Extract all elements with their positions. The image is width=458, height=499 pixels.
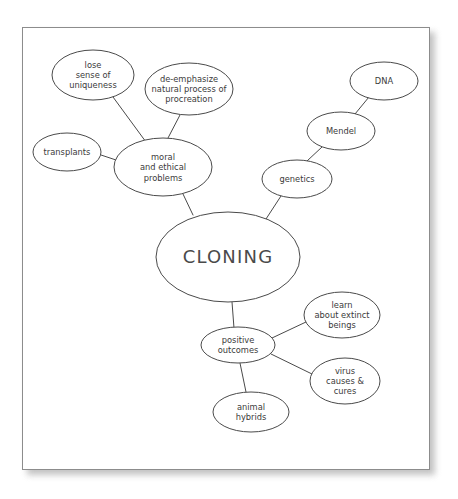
- edge-de-emphasize-to-moral-problems: [168, 115, 180, 138]
- node-positive-outcomes-label: positiveoutcomes: [218, 335, 259, 355]
- node-learn-about-extinct-beings: learnabout extinctbeings: [304, 292, 380, 338]
- node-transplants-label: transplants: [44, 147, 91, 157]
- node-genetics: genetics: [262, 160, 332, 198]
- edge-transplants-to-moral-problems: [101, 155, 116, 160]
- edge-genetics-to-cloning: [266, 196, 281, 219]
- edge-positive-outcomes-to-animal-hybrids: [240, 363, 246, 392]
- edge-positive-outcomes-to-virus-cures: [271, 354, 312, 374]
- node-de-emphasize-natural-process-of-procreation: de-emphasizenatural process ofprocreatio…: [145, 63, 233, 115]
- edge-positive-outcomes-to-extinct-beings: [272, 322, 306, 338]
- node-animal-hybrids-label: animalhybrids: [236, 402, 267, 422]
- node-transplants: transplants: [33, 133, 101, 171]
- node-positive-outcomes: positiveoutcomes: [201, 327, 275, 363]
- node-lose-sense-of-uniqueness: losesense ofuniqueness: [52, 50, 134, 100]
- node-moral-and-ethical-problems: moraland ethicalproblems: [114, 138, 212, 196]
- edge-cloning-to-positive-outcomes: [232, 302, 234, 328]
- node-mendel: Mendel: [307, 112, 375, 150]
- edge-moral-problems-to-cloning: [183, 194, 193, 215]
- concept-map-scan: CLONINGmoraland ethicalproblemslosesense…: [0, 0, 458, 499]
- node-animal-hybrids: animalhybrids: [213, 392, 289, 432]
- node-virus-causes-and-cures: viruscauses &cures: [310, 358, 380, 404]
- node-mendel-label: Mendel: [326, 126, 356, 136]
- node-dna: DNA: [350, 62, 418, 100]
- node-cloning: CLONING: [156, 212, 300, 302]
- edge-dna-to-mendel: [355, 97, 369, 114]
- node-dna-label: DNA: [375, 76, 394, 86]
- concept-map-canvas: CLONINGmoraland ethicalproblemslosesense…: [0, 0, 458, 499]
- edge-lose-uniqueness-to-moral-problems: [113, 97, 146, 142]
- node-cloning-label: CLONING: [183, 246, 274, 267]
- node-genetics-label: genetics: [279, 174, 314, 184]
- edge-mendel-to-genetics: [307, 147, 322, 161]
